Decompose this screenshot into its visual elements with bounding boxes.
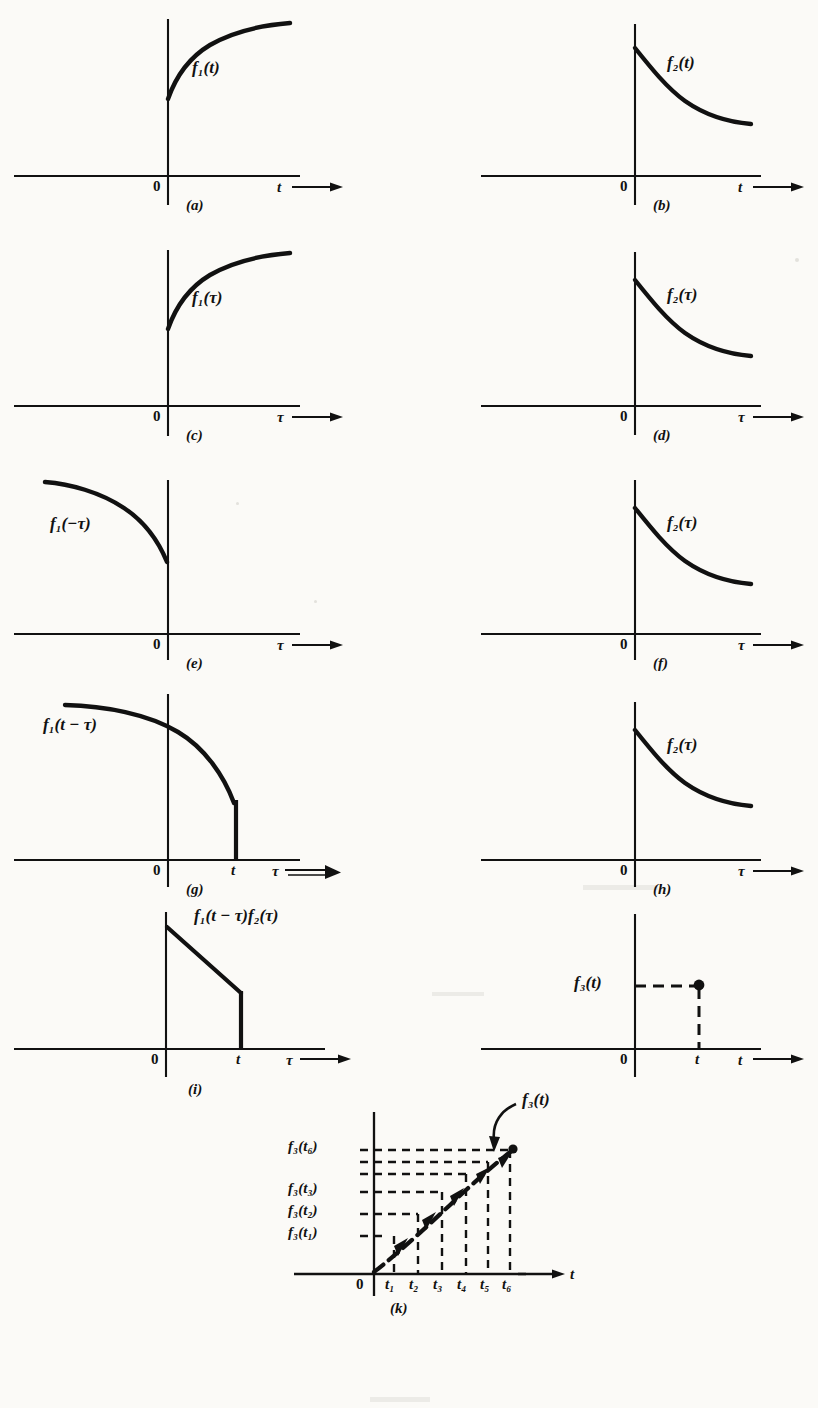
tick-label-t-j: t [695, 1051, 699, 1068]
x-axis-label-a: t [277, 179, 281, 196]
origin-label-g: 0 [153, 862, 161, 879]
panel-f: f₂(τ) 0 τ (f) [409, 452, 818, 666]
panel-caption-b: (b) [653, 197, 671, 214]
panel-h: f₂(τ) 0 τ (h) [409, 672, 818, 892]
origin-label-c: 0 [153, 408, 161, 425]
origin-label-h: 0 [620, 862, 628, 879]
x-axis-arrow [753, 183, 804, 192]
x-axis-label-d: τ [738, 409, 745, 426]
x-axis-arrow [753, 867, 804, 876]
panel-caption-k: (k) [390, 1300, 408, 1317]
origin-label-k: 0 [356, 1276, 364, 1293]
curve-f1-t [168, 23, 290, 99]
panel-caption-c: (c) [186, 427, 203, 444]
x-axis-arrow [300, 1055, 351, 1064]
curve-label-c: f₁(τ) [192, 288, 222, 308]
x-tick-label-t3: t₃ [433, 1276, 442, 1293]
x-axis-arrow [518, 1270, 565, 1279]
sample-point-dot [694, 980, 705, 991]
curve-label-d: f₂(τ) [667, 285, 697, 305]
terminal-point-dot [508, 1144, 517, 1153]
curve-product [167, 927, 241, 993]
x-axis-arrow [292, 641, 343, 650]
curve-label-k: f₃(t) [522, 1090, 550, 1110]
x-axis-label-h: τ [738, 863, 745, 880]
curve-label-a: f₁(t) [192, 58, 220, 78]
panel-g: f₁(t − τ) 0 t τ (g) [0, 672, 409, 892]
curve-f1-tau [168, 253, 290, 329]
x-axis-label-e: τ [277, 637, 284, 654]
y-tick-label-f3t3: f₃(t₃) [288, 1180, 318, 1197]
x-tick-label-t4: t₄ [457, 1276, 466, 1293]
figure-page: f₁(t) 0 t (a) f₂(t) 0 t (b) [0, 0, 818, 1408]
tick-label-t-g: t [231, 862, 235, 879]
x-axis-label-f: τ [738, 637, 745, 654]
panel-i: f₁(t − τ)f₂(τ) 0 t τ (i) [0, 892, 409, 1092]
panel-a: f₁(t) 0 t (a) [0, 0, 409, 215]
panel-j: f₃(t) 0 t t (j) [409, 892, 818, 1092]
x-axis-arrow [753, 1055, 804, 1064]
panel-caption-i: (i) [188, 1081, 202, 1098]
x-axis-label-i: τ [286, 1052, 293, 1069]
x-axis-label-j: t [738, 1052, 742, 1069]
curve-label-i: f₁(t − τ)f₂(τ) [194, 906, 278, 926]
panel-c: f₁(τ) 0 τ (c) [0, 232, 409, 444]
panel-caption-f: (f) [653, 655, 668, 672]
x-tick-label-t1: t₁ [385, 1276, 394, 1293]
x-axis-arrow [753, 641, 804, 650]
curve-label-g: f₁(t − τ) [43, 715, 97, 735]
curve-label-j: f₃(t) [574, 973, 602, 993]
panel-d: f₂(τ) 0 τ (d) [409, 232, 818, 444]
annotation-arrow-curve [494, 1104, 516, 1140]
panel-caption-e: (e) [186, 655, 203, 672]
curve-label-h: f₂(τ) [667, 735, 697, 755]
origin-label-d: 0 [620, 408, 628, 425]
sampled-curve-f3 [374, 1150, 513, 1272]
x-axis-arrow [292, 183, 343, 192]
x-tick-label-t6: t₆ [502, 1276, 511, 1293]
x-axis-label-c: τ [277, 409, 284, 426]
x-axis-arrow [753, 413, 804, 422]
panel-b: f₂(t) 0 t (b) [409, 0, 818, 215]
x-axis-label-b: t [738, 179, 742, 196]
y-tick-label-f3t6: f₃(t₆) [288, 1138, 318, 1155]
panel-caption-a: (a) [186, 197, 204, 214]
origin-label-e: 0 [153, 636, 161, 653]
tick-label-t-i: t [236, 1051, 240, 1068]
panel-caption-d: (d) [653, 427, 671, 444]
curve-label-e: f₁(−τ) [50, 514, 91, 534]
curve-label-b: f₂(t) [667, 53, 695, 73]
y-tick-label-f3t2: f₃(t₂) [288, 1202, 318, 1219]
curve-label-f: f₂(τ) [667, 513, 697, 533]
paper-smudge [370, 1397, 430, 1402]
origin-label-j: 0 [620, 1051, 628, 1068]
panel-e: f₁(−τ) 0 τ (e) [0, 452, 409, 666]
origin-label-a: 0 [153, 178, 161, 195]
x-axis-label-k: t [570, 1266, 574, 1283]
panel-k: f₃(t₆) f₃(t₃) f₃(t₂) f₃(t₁) f₃(t) 0 t₁ t… [270, 1090, 600, 1320]
x-axis-arrow-double [285, 865, 341, 879]
origin-label-b: 0 [620, 178, 628, 195]
origin-label-f: 0 [620, 636, 628, 653]
x-tick-label-t5: t₅ [480, 1276, 489, 1293]
x-axis-label-g: τ [272, 863, 279, 880]
x-tick-label-t2: t₂ [409, 1276, 418, 1293]
x-axis-arrow [292, 413, 343, 422]
origin-label-i: 0 [151, 1051, 159, 1068]
y-tick-label-f3t1: f₃(t₁) [288, 1224, 318, 1241]
